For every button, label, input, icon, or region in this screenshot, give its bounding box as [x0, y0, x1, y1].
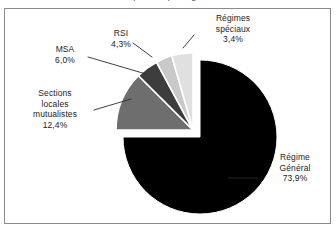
pie-chart-figure: répartition par régime: [0, 0, 336, 230]
slice-value-rsi: 4,3%: [96, 39, 146, 50]
slice-value-msa: 6,0%: [42, 55, 88, 66]
slice-label-line: Sections: [38, 88, 71, 98]
slice-value-regime-general: 73,9%: [262, 173, 328, 184]
slice-label-regimes-speciaux: Régimes spéciaux 3,4%: [196, 13, 270, 45]
exploded-slices-group: [116, 53, 193, 130]
slice-label-line: locales: [41, 99, 68, 109]
slice-value-sections-locales-mutualistes: 12,4%: [12, 120, 98, 131]
slice-label-msa: MSA 6,0%: [42, 44, 88, 65]
slice-label-line: Général: [280, 163, 311, 173]
slice-label-line: Régimes: [216, 13, 250, 23]
leader-line-msa: [88, 57, 146, 74]
slice-label-line: mutualistes: [33, 109, 77, 119]
slice-label-regime-general: Régime Général 73,9%: [262, 152, 328, 184]
slice-label-line: RSI: [114, 28, 128, 38]
slice-label-line: MSA: [56, 44, 75, 54]
slice-value-regimes-speciaux: 3,4%: [196, 34, 270, 45]
slice-label-sections-locales-mutualistes: Sections locales mutualistes 12,4%: [12, 88, 98, 130]
slice-label-rsi: RSI 4,3%: [96, 28, 146, 49]
slice-label-line: spéciaux: [216, 24, 250, 34]
slice-label-line: Régime: [280, 152, 310, 162]
leader-line-regimes-speciaux: [183, 35, 194, 48]
